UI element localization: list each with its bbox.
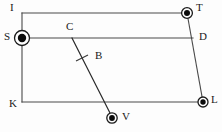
node-marker-V xyxy=(107,113,117,123)
segment-T-L xyxy=(187,13,203,102)
node-marker-S xyxy=(15,31,30,46)
point-label-S: S xyxy=(4,31,10,42)
node-marker-T xyxy=(182,8,193,19)
tick-mark-cv xyxy=(76,55,88,61)
point-label-V: V xyxy=(122,111,130,122)
geometry-diagram: I T S C D B K L V xyxy=(0,0,222,132)
point-label-L: L xyxy=(211,94,218,105)
point-label-K: K xyxy=(9,98,17,109)
point-label-I: I xyxy=(10,2,14,13)
point-label-T: T xyxy=(196,2,203,13)
point-label-C: C xyxy=(66,21,73,32)
point-label-B: B xyxy=(95,50,102,61)
segment-C-V xyxy=(72,38,112,117)
point-label-D: D xyxy=(199,31,207,42)
node-marker-L xyxy=(198,97,208,107)
diagram-canvas xyxy=(0,0,222,132)
